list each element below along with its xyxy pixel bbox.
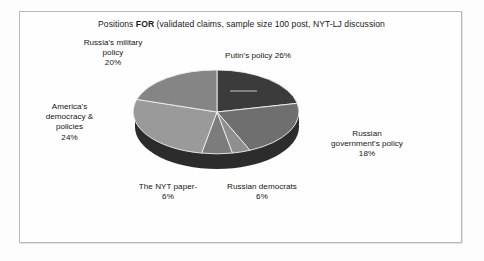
pie-chart: Russia's military policy 20% Putin's pol…	[20, 12, 463, 244]
pie-label-putins-policy: Putin's policy 26%	[225, 51, 345, 61]
pie-label-russian-governments-policy: Russian government's policy 18%	[303, 129, 431, 160]
pie-label-russian-democrats: Russian democrats 6%	[212, 182, 312, 202]
pie-label-the-nyt-paper: The NYT paper- 6%	[124, 182, 212, 202]
pie-label-russias-military-policy: Russia's military policy 20%	[67, 38, 159, 69]
pie-chart-graphic	[117, 51, 317, 191]
pie-slices	[133, 70, 299, 154]
chart-frame: Positions FOR (validated claims, sample …	[19, 11, 462, 243]
pie-label-americas-democracy-and-policies: America's democracy & policies 24%	[22, 102, 117, 143]
